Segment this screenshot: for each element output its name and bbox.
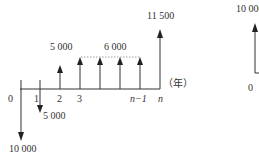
amount-inflow-2: 5 000 xyxy=(50,42,73,52)
axis-unit-label: （年） xyxy=(163,79,193,89)
tick-label-1: 1 xyxy=(34,94,39,104)
amount-outflow-1: 5 000 xyxy=(43,111,66,121)
tick-label-n-minus-1: n−1 xyxy=(130,94,147,104)
partial-amount: 10 000 xyxy=(236,4,259,14)
amount-inflow-range: 6 000 xyxy=(104,42,127,52)
tick-label-2: 2 xyxy=(57,94,62,104)
amount-inflow-n: 11 500 xyxy=(147,11,174,21)
tick-label-0: 0 xyxy=(8,94,13,104)
amount-outflow-0: 10 000 xyxy=(9,144,37,154)
partial-tick-0: 0 xyxy=(248,83,253,93)
cash-flow-diagram xyxy=(0,0,259,164)
tick-label-3: 3 xyxy=(77,94,82,104)
tick-label-n: n xyxy=(158,94,163,104)
